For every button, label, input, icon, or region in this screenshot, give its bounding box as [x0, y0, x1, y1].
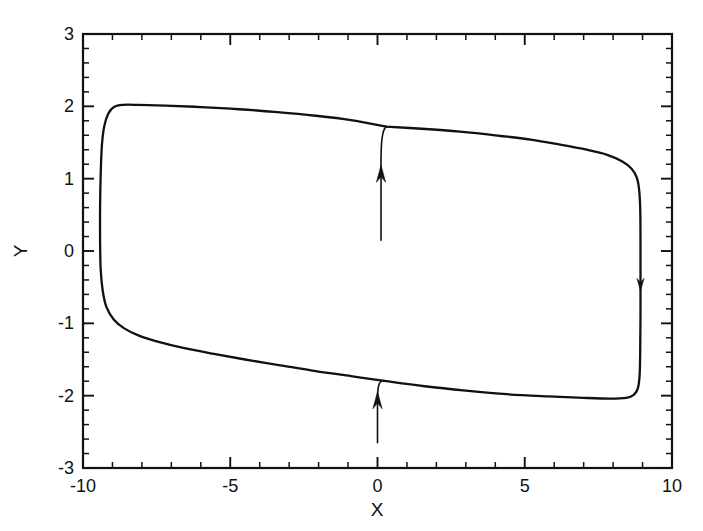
y-axis-label: Y — [10, 244, 31, 257]
flow-direction-arrows — [373, 165, 644, 408]
x-tick-label: 0 — [372, 476, 382, 496]
figure-container: -10-50510 -3-2-10123 X Y — [0, 0, 703, 531]
y-tick-label: -1 — [58, 313, 74, 333]
y-tick-label: 2 — [64, 96, 74, 116]
data-curves — [100, 105, 641, 443]
x-tick-label: -10 — [70, 476, 96, 496]
x-tick-label: 10 — [662, 476, 682, 496]
y-tick-label: 1 — [64, 169, 74, 189]
phase-portrait-plot: -10-50510 -3-2-10123 X Y — [0, 0, 703, 531]
x-tick-label: -5 — [222, 476, 238, 496]
y-tick-label: 3 — [64, 24, 74, 44]
x-tick-labels: -10-50510 — [70, 476, 682, 496]
y-tick-label: -2 — [58, 386, 74, 406]
limit-cycle — [100, 105, 641, 399]
x-axis-label: X — [371, 499, 384, 520]
transient-lower — [377, 380, 383, 442]
transient-upper — [381, 127, 387, 241]
x-tick-label: 5 — [520, 476, 530, 496]
y-tick-label: 0 — [64, 241, 74, 261]
y-tick-labels: -3-2-10123 — [58, 24, 74, 478]
y-tick-label: -3 — [58, 458, 74, 478]
